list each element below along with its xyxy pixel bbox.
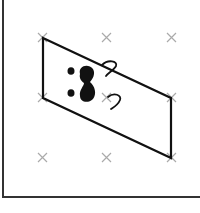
eye-dot [68,67,75,75]
nose-blob [80,66,95,102]
x-marker-icon [167,33,176,42]
drawing-canvas [0,0,200,213]
eye-dot [68,89,75,97]
x-marker-icon [102,153,111,162]
x-marker-icon [102,33,111,42]
x-marker-icon [38,153,47,162]
grid-markers [38,33,176,162]
x-marker-icon [102,93,111,102]
face-drawing [68,61,121,109]
ear-curl-bottom [108,94,120,109]
